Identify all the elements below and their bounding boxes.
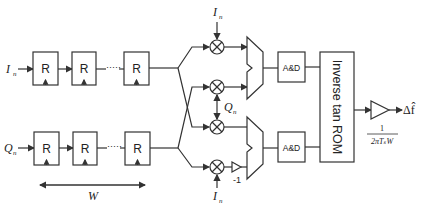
register-top-n: R [124,52,149,85]
multiplier-1 [210,40,224,54]
accumulate-dump-top: A&D [278,52,305,82]
svg-text:n: n [233,108,237,116]
register-bottom-n: R [125,132,150,165]
svg-text:W: W [88,189,99,203]
gain-expression: 1 2πTₛW [367,124,398,146]
mult23-ref-input-q: Q n [217,95,237,119]
svg-text:R: R [41,62,50,76]
multiplier-4 [210,160,224,174]
window-width-indicator: W [40,185,145,203]
mult4-ref-input-i: I n [212,175,223,205]
svg-text:n: n [219,197,223,205]
svg-text:R: R [42,142,51,156]
negate-gain: -1 [232,162,247,185]
mult1-ref-input-i: I n [212,5,223,39]
input-q-label: Q n [4,141,17,157]
accumulate-dump-bottom: A&D [278,132,305,162]
svg-text:R: R [80,62,89,76]
svg-text:n: n [13,70,17,78]
inverse-tan-rom: Inverse tan ROM [320,52,354,162]
svg-text:R: R [132,62,141,76]
register-bottom-1: R [34,132,59,165]
svg-text:I: I [212,189,218,203]
adder-bottom [247,117,263,179]
svg-text:I: I [5,62,11,76]
block-diagram: I n R R ····· R Q n R R ····· R [0,0,425,206]
svg-text:-1: -1 [233,175,241,185]
svg-text:n: n [13,149,17,157]
svg-text:R: R [133,142,142,156]
register-top-2: R [72,52,96,85]
output-gain-amplifier [371,101,389,119]
svg-text:1: 1 [380,124,384,133]
svg-text:Q: Q [4,141,13,155]
svg-text:Inverse tan ROM: Inverse tan ROM [330,60,344,154]
register-top-1: R [33,52,58,85]
ellipsis-bottom: ····· [107,141,122,151]
svg-text:R: R [81,142,90,156]
adder-top [247,37,263,99]
svg-text:A&D: A&D [283,143,300,153]
multiplier-3 [210,120,224,134]
register-bottom-2: R [73,132,97,165]
ellipsis-top: ····· [106,62,121,72]
output-frequency-estimate: Δf̂ [403,102,415,117]
svg-text:Q: Q [224,100,233,114]
svg-text:A&D: A&D [283,63,300,73]
input-i-label: I n [5,62,17,78]
svg-text:n: n [219,13,223,21]
multiplier-2 [210,80,224,94]
svg-text:2πTₛW: 2πTₛW [371,137,394,146]
svg-text:I: I [212,5,218,19]
